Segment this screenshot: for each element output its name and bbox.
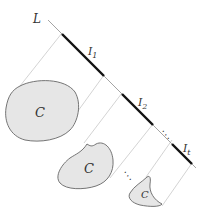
- interval-t-label: It: [182, 142, 191, 157]
- line-label: L: [32, 12, 41, 26]
- interval-1: [62, 34, 104, 76]
- intervals: [62, 34, 192, 164]
- shape-2-label: C: [84, 161, 94, 176]
- shape-1-label: C: [35, 105, 45, 120]
- ellipsis-between-shapes: ⋱: [122, 170, 132, 181]
- interval-2-label: I2: [137, 96, 147, 111]
- projection-diagram: L I1 I2 It C C C ⋱ ⋱: [0, 0, 209, 219]
- ellipsis-on-line: ⋱: [160, 129, 170, 140]
- interval-1-label: I1: [87, 45, 97, 60]
- shape-3-label: C: [141, 189, 149, 200]
